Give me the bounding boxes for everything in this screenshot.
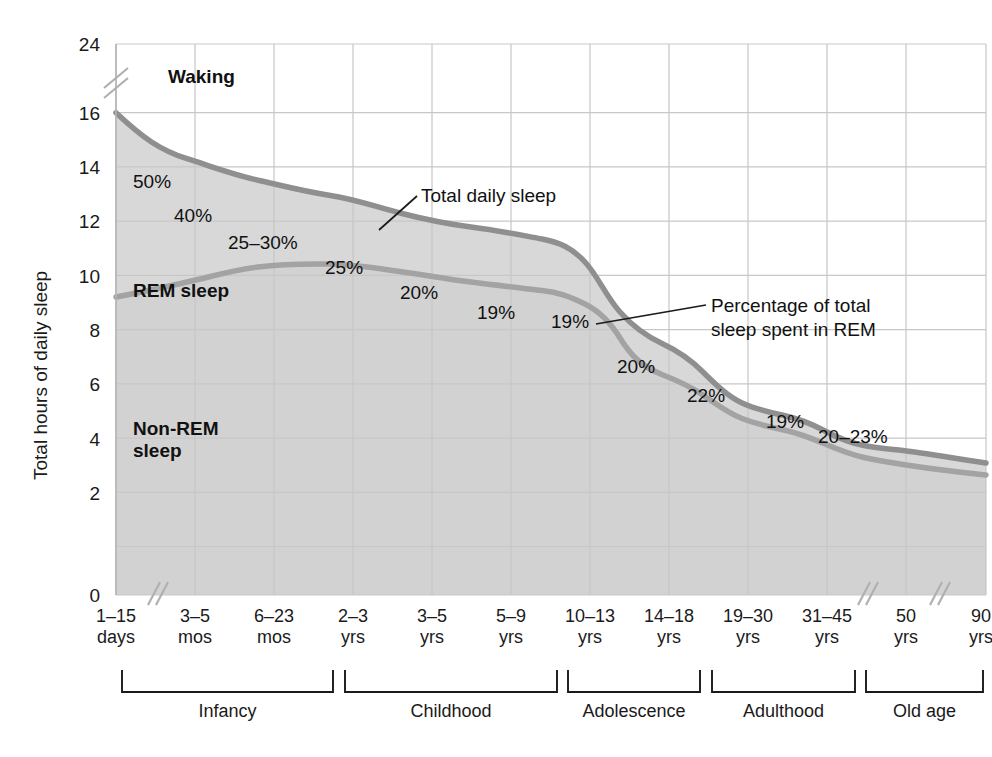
rem-pct-label-3: 25–30%: [228, 233, 298, 252]
rem-pct-label-7: 19%: [551, 312, 589, 331]
rem-pct-label-10: 19%: [766, 412, 804, 431]
x-tick-10-line1: 50: [866, 606, 946, 627]
x-tick-8-line1: 19–30: [708, 606, 788, 627]
x-tick-7-line1: 14–18: [629, 606, 709, 627]
non-rem-text-line2: sleep: [133, 440, 218, 462]
x-tick-3-line2: yrs: [313, 627, 393, 648]
y-tick-8: 8: [56, 321, 100, 340]
x-tick-5-line2: yrs: [471, 627, 551, 648]
rem-sleep-text: REM sleep: [133, 280, 229, 302]
y-tick-6: 6: [56, 375, 100, 394]
region-label-rem: REM sleep: [133, 280, 229, 302]
x-tick-1-line1: 3–5: [155, 606, 235, 627]
x-tick-8: 19–30 yrs: [708, 606, 788, 648]
x-tick-2-line2: mos: [234, 627, 314, 648]
rem-pct-label-6: 19%: [477, 303, 515, 322]
callout-rem-pct-line2: sleep spent in REM: [711, 318, 876, 342]
stage-label-childhood: Childhood: [345, 702, 557, 720]
bracket-adulthood: [712, 670, 855, 692]
waking-text: Waking: [168, 66, 235, 88]
x-tick-6-line2: yrs: [550, 627, 630, 648]
x-tick-0: 1–15 days: [76, 606, 156, 648]
y-tick-2: 2: [56, 484, 100, 503]
bracket-old-age: [866, 670, 983, 692]
rem-pct-label-2: 40%: [174, 206, 212, 225]
y-axis-title: Total hours of daily sleep: [30, 271, 52, 480]
rem-pct-label-4: 25%: [325, 258, 363, 277]
x-tick-1: 3–5 mos: [155, 606, 235, 648]
x-tick-7: 14–18 yrs: [629, 606, 709, 648]
x-tick-11-line1: 90: [941, 606, 992, 627]
x-tick-1-line2: mos: [155, 627, 235, 648]
stage-label-adolescence: Adolescence: [568, 702, 700, 720]
rem-pct-label-11: 20–23%: [818, 427, 888, 446]
callout-rem-percentage: Percentage of total sleep spent in REM: [711, 294, 876, 342]
x-tick-8-line2: yrs: [708, 627, 788, 648]
y-tick-0: 0: [56, 586, 100, 605]
rem-pct-label-5: 20%: [400, 283, 438, 302]
bracket-adolescence: [568, 670, 700, 692]
x-tick-7-line2: yrs: [629, 627, 709, 648]
y-tick-4: 4: [56, 430, 100, 449]
stage-label-infancy: Infancy: [122, 702, 333, 720]
x-tick-6: 10–13 yrs: [550, 606, 630, 648]
x-tick-4-line1: 3–5: [392, 606, 472, 627]
x-tick-3-line1: 2–3: [313, 606, 393, 627]
callout-rem-pct-line1: Percentage of total: [711, 294, 876, 318]
stage-label-old-age: Old age: [866, 702, 983, 720]
y-tick-14: 14: [56, 158, 100, 177]
x-tick-9-line1: 31–45: [787, 606, 867, 627]
x-tick-11-line2: yrs: [941, 627, 992, 648]
y-tick-24: 24: [56, 35, 100, 54]
region-label-waking: Waking: [168, 66, 235, 88]
x-tick-4-line2: yrs: [392, 627, 472, 648]
callout-total-daily-sleep: Total daily sleep: [421, 184, 556, 208]
x-tick-0-line1: 1–15: [76, 606, 156, 627]
x-tick-9: 31–45 yrs: [787, 606, 867, 648]
x-tick-2-line1: 6–23: [234, 606, 314, 627]
x-tick-2: 6–23 mos: [234, 606, 314, 648]
rem-pct-label-1: 50%: [133, 172, 171, 191]
y-tick-16: 16: [56, 104, 100, 123]
non-rem-text-line1: Non-REM: [133, 418, 218, 440]
bracket-infancy: [122, 670, 333, 692]
x-tick-10: 50 yrs: [866, 606, 946, 648]
x-tick-10-line2: yrs: [866, 627, 946, 648]
rem-pct-label-9: 22%: [687, 386, 725, 405]
sleep-chart-figure: Total hours of daily sleep 24 16 14 12 1…: [0, 0, 992, 757]
y-tick-10: 10: [56, 267, 100, 286]
x-tick-5-line1: 5–9: [471, 606, 551, 627]
callout-total-sleep-text: Total daily sleep: [421, 184, 556, 208]
life-stage-brackets: [122, 670, 983, 692]
x-tick-3: 2–3 yrs: [313, 606, 393, 648]
y-tick-12: 12: [56, 212, 100, 231]
x-tick-11: 90 yrs: [941, 606, 992, 648]
stage-label-adulthood: Adulthood: [712, 702, 855, 720]
rem-pct-label-8: 20%: [617, 357, 655, 376]
region-label-non-rem: Non-REM sleep: [133, 418, 218, 462]
x-tick-6-line1: 10–13: [550, 606, 630, 627]
x-tick-5: 5–9 yrs: [471, 606, 551, 648]
x-tick-0-line2: days: [76, 627, 156, 648]
x-tick-4: 3–5 yrs: [392, 606, 472, 648]
x-tick-9-line2: yrs: [787, 627, 867, 648]
bracket-childhood: [345, 670, 557, 692]
